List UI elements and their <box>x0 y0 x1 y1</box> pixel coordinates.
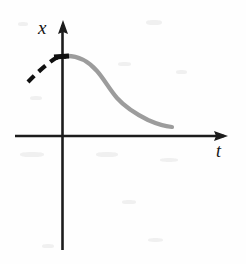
prior-history-dashed-curve <box>28 57 66 83</box>
plot-canvas <box>0 0 246 264</box>
x-axis-arrowhead <box>58 20 68 34</box>
dashed-curve-terminal-stub <box>54 56 69 57</box>
graph-figure: x t <box>0 0 246 264</box>
response-curve <box>66 56 172 127</box>
t-axis-label: t <box>216 142 221 160</box>
x-axis-label: x <box>38 18 46 37</box>
t-axis-arrowhead <box>214 131 228 141</box>
